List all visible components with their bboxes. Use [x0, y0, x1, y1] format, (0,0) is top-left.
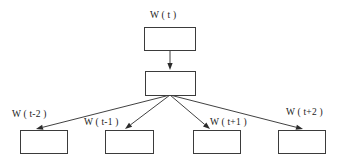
node-label-input-word: W ( t ) [150, 11, 176, 21]
arrow-head-output-0 [36, 125, 43, 130]
node-box-output-0 [21, 131, 68, 154]
arrow-head-output-3 [296, 125, 303, 130]
node-label-output-2: W ( t+1 ) [210, 118, 247, 128]
node-box-output-3 [279, 131, 326, 154]
edge-line-output-1 [131, 95, 170, 125]
diagram-canvas: W ( t ) W ( t-2 ) W ( t-1 ) W ( t+1 ) W … [0, 0, 341, 166]
edge-projection-to-output-1 [125, 95, 170, 129]
node-box-output-2 [194, 131, 241, 154]
arrow-head-vertical [167, 63, 172, 70]
node-box-output-1 [106, 131, 154, 154]
node-box-projection [146, 72, 196, 96]
node-label-output-1: W ( t-1 ) [84, 118, 119, 128]
node-label-output-0: W ( t-2 ) [12, 110, 47, 120]
node-label-output-3: W ( t+2 ) [286, 108, 323, 118]
diagram-svg [0, 0, 341, 166]
arrow-head-output-1 [125, 123, 132, 129]
edge-input-to-projection [167, 50, 172, 70]
node-box-input-word [145, 28, 196, 51]
